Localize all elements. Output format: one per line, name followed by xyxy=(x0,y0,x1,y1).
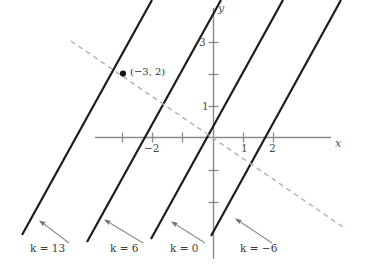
dashed-orthogonal-line xyxy=(71,41,346,229)
y-axis-label: y xyxy=(218,3,224,14)
y-tick-label-1: 1 xyxy=(202,101,209,112)
x-axis-label: x xyxy=(335,138,341,149)
line-label-kneg6: k = −6 xyxy=(240,243,277,254)
arrow-to-k13 xyxy=(40,221,69,243)
line-k-13 xyxy=(22,0,152,235)
y-tick-label-3: 3 xyxy=(199,37,206,48)
line-label-k13: k = 13 xyxy=(30,243,65,254)
x-tick-label-neg2: −2 xyxy=(144,143,159,154)
axes-group xyxy=(95,8,331,259)
arrow-to-k0 xyxy=(172,222,205,243)
x-tick-label-pos1: 1 xyxy=(241,143,248,154)
point-label-minus3-2: (−3, 2) xyxy=(130,67,165,77)
plot-canvas xyxy=(0,0,366,272)
line-label-k6: k = 6 xyxy=(110,243,139,254)
point-marker-minus3-2 xyxy=(120,70,126,76)
graph-figure: y x −2 1 2 3 1 (−3, 2) k = 13 k = 6 k = … xyxy=(0,0,366,272)
x-tick-label-pos2: 2 xyxy=(269,143,276,154)
line-label-k0: k = 0 xyxy=(170,243,199,254)
line-k-neg6 xyxy=(211,0,341,236)
solution-lines-group xyxy=(22,0,341,242)
arrow-to-k6 xyxy=(105,220,143,243)
arrow-to-kneg6 xyxy=(236,219,272,243)
